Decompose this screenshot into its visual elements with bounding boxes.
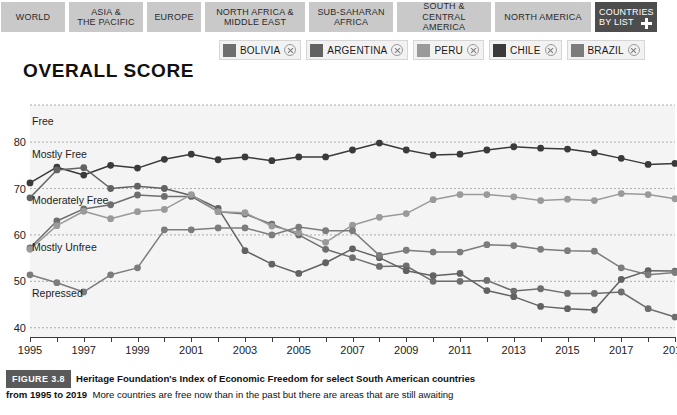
y-tick-label: 80 bbox=[14, 136, 26, 148]
close-circle-icon[interactable] bbox=[391, 44, 403, 56]
data-point bbox=[457, 270, 464, 277]
tab-europe[interactable]: EUROPE bbox=[147, 2, 201, 32]
tab-north-africa-middle-east[interactable]: NORTH AFRICA & MIDDLE EAST bbox=[205, 2, 305, 32]
x-tick bbox=[648, 337, 649, 342]
data-point bbox=[53, 279, 60, 286]
data-point bbox=[268, 232, 275, 239]
x-tick-label: 1997 bbox=[72, 344, 96, 356]
legend-label: BRAZIL bbox=[588, 45, 624, 56]
data-point bbox=[457, 278, 464, 285]
data-point bbox=[618, 155, 625, 162]
close-circle-icon[interactable] bbox=[545, 44, 557, 56]
x-tick-label: 2003 bbox=[233, 344, 257, 356]
x-tick bbox=[541, 337, 542, 342]
x-tick-label: 2013 bbox=[502, 344, 526, 356]
data-point bbox=[107, 185, 114, 192]
data-point bbox=[537, 145, 544, 152]
tab-countries-by-list[interactable]: COUNTRIES BY LIST bbox=[595, 2, 657, 32]
data-point bbox=[403, 147, 410, 154]
y-tick-label: 50 bbox=[14, 275, 26, 287]
x-tick bbox=[245, 337, 246, 342]
x-tick bbox=[379, 337, 380, 342]
data-point bbox=[134, 192, 141, 199]
data-point bbox=[618, 289, 625, 296]
data-point bbox=[618, 264, 625, 271]
tab-world[interactable]: WORLD bbox=[1, 2, 65, 32]
country-legend: BOLIVIA ARGENTINA PERU CHILE BRAZIL bbox=[219, 40, 645, 60]
close-circle-icon[interactable] bbox=[467, 44, 479, 56]
data-point bbox=[376, 252, 383, 259]
x-tick bbox=[84, 337, 85, 342]
data-point bbox=[510, 293, 517, 300]
x-tick bbox=[568, 337, 569, 342]
data-point bbox=[349, 147, 356, 154]
band-label: Mostly Unfree bbox=[32, 241, 97, 253]
data-point bbox=[134, 183, 141, 190]
tab-asia-the-pacific[interactable]: ASIA & THE PACIFIC bbox=[69, 2, 143, 32]
data-point bbox=[483, 241, 490, 248]
data-point bbox=[430, 272, 437, 279]
data-point bbox=[403, 247, 410, 254]
data-point bbox=[80, 208, 87, 215]
legend-item-bolivia[interactable]: BOLIVIA bbox=[219, 40, 301, 60]
data-point bbox=[591, 197, 598, 204]
data-point bbox=[537, 197, 544, 204]
chart-svg bbox=[0, 100, 677, 348]
close-circle-icon[interactable] bbox=[628, 44, 640, 56]
x-tick-label: 1999 bbox=[125, 344, 149, 356]
data-point bbox=[268, 261, 275, 268]
data-point bbox=[510, 242, 517, 249]
legend-item-argentina[interactable]: ARGENTINA bbox=[306, 40, 408, 60]
data-point bbox=[591, 290, 598, 297]
color-swatch-icon bbox=[571, 44, 584, 57]
x-tick bbox=[487, 337, 488, 342]
x-tick bbox=[353, 337, 354, 342]
legend-item-brazil[interactable]: BRAZIL bbox=[567, 40, 645, 60]
x-tick bbox=[460, 337, 461, 342]
x-tick-label: 2001 bbox=[179, 344, 203, 356]
tab-south-central-america[interactable]: SOUTH & CENTRAL AMERICA bbox=[397, 2, 491, 32]
data-point bbox=[483, 147, 490, 154]
tab-sub-saharan-africa[interactable]: SUB-SAHARAN AFRICA bbox=[309, 2, 393, 32]
legend-item-chile[interactable]: CHILE bbox=[489, 40, 561, 60]
series-line-peru bbox=[30, 194, 675, 250]
legend-item-peru[interactable]: PERU bbox=[413, 40, 484, 60]
data-point bbox=[537, 285, 544, 292]
data-point bbox=[564, 196, 571, 203]
x-tick bbox=[111, 337, 112, 342]
data-point bbox=[242, 247, 249, 254]
data-point bbox=[672, 160, 677, 167]
data-point bbox=[645, 305, 652, 312]
x-tick bbox=[138, 337, 139, 342]
data-point bbox=[322, 239, 329, 246]
tab-north-america[interactable]: NORTH AMERICA bbox=[495, 2, 591, 32]
y-tick-label: 70 bbox=[14, 183, 26, 195]
data-point bbox=[457, 151, 464, 158]
region-tab-bar: WORLD ASIA & THE PACIFIC EUROPE NORTH AF… bbox=[0, 2, 677, 32]
x-tick bbox=[30, 337, 31, 342]
data-point bbox=[134, 264, 141, 271]
data-point bbox=[510, 193, 517, 200]
y-tick-label: 40 bbox=[14, 322, 26, 334]
data-point bbox=[188, 151, 195, 158]
data-point bbox=[483, 277, 490, 284]
x-tick-label: 2017 bbox=[609, 344, 633, 356]
data-point bbox=[591, 248, 598, 255]
color-swatch-icon bbox=[417, 44, 430, 57]
data-point bbox=[161, 206, 168, 213]
data-point bbox=[645, 161, 652, 168]
data-point bbox=[483, 287, 490, 294]
x-tick bbox=[57, 337, 58, 342]
caption-bold-2: from 1995 to 2019 bbox=[6, 389, 87, 400]
close-circle-icon[interactable] bbox=[284, 44, 296, 56]
legend-label: ARGENTINA bbox=[327, 45, 387, 56]
band-label: Moderately Free bbox=[32, 194, 108, 206]
data-point bbox=[591, 307, 598, 314]
data-point bbox=[376, 263, 383, 270]
y-tick-label: 60 bbox=[14, 229, 26, 241]
data-point bbox=[268, 223, 275, 230]
data-point bbox=[161, 185, 168, 192]
data-point bbox=[349, 254, 356, 261]
x-tick-label: 2007 bbox=[340, 344, 364, 356]
x-tick bbox=[299, 337, 300, 342]
